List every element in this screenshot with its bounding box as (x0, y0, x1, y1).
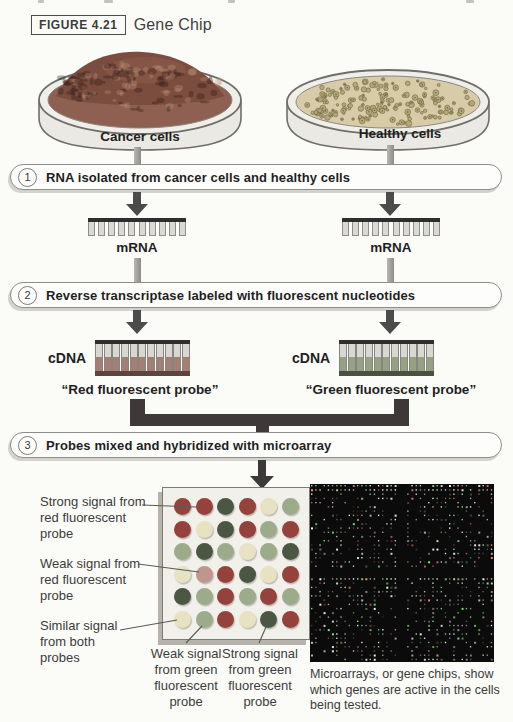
cdna-label-left: cDNA (48, 350, 86, 366)
mrna-tooth (352, 222, 359, 236)
down-arrow-icon (126, 310, 148, 334)
mrna-strand-left (88, 218, 186, 236)
down-arrow-icon (379, 192, 401, 216)
cdna-base-pair (147, 344, 155, 371)
microarray-dot-yellow (260, 566, 277, 583)
microarray-dot-red (282, 611, 299, 628)
microarray-dot-dgreen (196, 543, 213, 560)
down-arrow-icon (250, 460, 274, 489)
microarray-dot-yellow (239, 543, 256, 560)
mrna-tooth (423, 222, 430, 236)
down-arrow-icon (379, 310, 401, 334)
microarray-dot-red (196, 498, 213, 515)
microarray-dot-yellow (239, 611, 256, 628)
mrna-tooth (118, 222, 125, 236)
cdna-base-pair (104, 344, 112, 371)
cdna-base-pair (391, 344, 399, 371)
cdna-base-pair (95, 344, 103, 371)
step2-banner: 2 Reverse transcriptase labeled with flu… (10, 282, 502, 308)
microarray-dot-dgreen (174, 588, 191, 605)
step3-number: 3 (18, 436, 37, 455)
microarray-dot-dgreen (217, 498, 234, 515)
mrna-tooth (372, 222, 379, 236)
mrna-tooth (98, 222, 105, 236)
mrna-label-right: mRNA (346, 240, 436, 255)
microarray-dot-dgreen (239, 566, 256, 583)
figure-title: Gene Chip (134, 16, 212, 34)
microarray-photo (310, 484, 494, 662)
cdna-base-pair (374, 344, 382, 371)
mrna-tooth (108, 222, 115, 236)
microarray-dot-green (260, 543, 277, 560)
mrna-tooth (403, 222, 410, 236)
microarray-dot-green (260, 521, 277, 538)
annotation-strong-green: Strong signal from green fluorescent pro… (214, 646, 306, 709)
cdna-base-pair (348, 344, 356, 371)
step2-number: 2 (18, 286, 37, 305)
connector-mrna-right-to-step2 (387, 258, 394, 283)
microarray-dot-green (282, 588, 299, 605)
cdna-base-pair (365, 344, 373, 371)
microarray-dot-red (174, 498, 191, 515)
microarray-dot-red (174, 521, 191, 538)
microarray-dot-green (196, 611, 213, 628)
step1-text: RNA isolated from cancer cells and healt… (46, 170, 350, 185)
microarray-dot-yellow (260, 498, 277, 515)
microarray-dot-red (239, 498, 256, 515)
microarray-dot-red (282, 521, 299, 538)
mrna-tooth (149, 222, 156, 236)
step3-banner: 3 Probes mixed and hybridized with micro… (10, 432, 502, 458)
green-probe-label: “Green fluorescent probe” (286, 382, 496, 397)
mrna-tooth (362, 222, 369, 236)
mrna-tooth (159, 222, 166, 236)
microarray-dot-dgreen (217, 521, 234, 538)
cdna-base-pair (138, 344, 146, 371)
cdna-base-pair (409, 344, 417, 371)
page-crop-remnant (228, 0, 235, 3)
cdna-base-pair (182, 344, 190, 371)
microarray-dot-yellow (174, 566, 191, 583)
down-arrow-icon (126, 192, 148, 216)
cdna-base-pair (165, 344, 173, 371)
merge-connector-horizontal (130, 414, 409, 426)
photo-caption: Microarrays, or gene chips, show which g… (310, 667, 506, 714)
mrna-tooth (139, 222, 146, 236)
page-crop-remnant (466, 0, 474, 3)
figure-number-tag: FIGURE 4.21 (31, 15, 126, 35)
mrna-tooth (382, 222, 389, 236)
mrna-tooth (128, 222, 135, 236)
connector-healthy-to-step1 (387, 145, 394, 166)
cdna-base-pair (382, 344, 390, 371)
cdna-label-right: cDNA (292, 350, 330, 366)
healthy-cells-label: Healthy cells (330, 126, 470, 141)
microarray-grid (162, 487, 310, 640)
microarray-dot-dgreen (260, 611, 277, 628)
microarray-dot-red (260, 588, 277, 605)
microarray-dot-red (239, 521, 256, 538)
microarray-dot-red (217, 566, 234, 583)
cancer-cells-label: Cancer cells (75, 129, 205, 144)
cdna-base-pair (173, 344, 181, 371)
mrna-tooth (393, 222, 400, 236)
cdna-base-pair (112, 344, 120, 371)
step2-text: Reverse transcriptase labeled with fluor… (46, 288, 415, 303)
cdna-base-pair (356, 344, 364, 371)
mrna-strand-right (342, 218, 440, 236)
cdna-base-pair (426, 344, 434, 371)
cdna-base-pair (400, 344, 408, 371)
cdna-base-pair (417, 344, 425, 371)
step3-text: Probes mixed and hybridized with microar… (46, 438, 331, 453)
mrna-tooth (413, 222, 420, 236)
cdna-red-probe-strand (95, 340, 190, 376)
microarray-dot-red (217, 611, 234, 628)
annotation-strong-red: Strong signal from red fluorescent probe (40, 494, 158, 542)
cdna-base-pair (156, 344, 164, 371)
annotation-similar-both: Similar signal from both probes (40, 618, 150, 666)
cdna-base-pair (130, 344, 138, 371)
microarray-dot-red (282, 566, 299, 583)
mrna-tooth (342, 222, 349, 236)
cdna-green-probe-strand (339, 340, 434, 376)
mrna-tooth (179, 222, 186, 236)
microarray-dot-green (196, 588, 213, 605)
gene-chip-figure: FIGURE 4.21 Gene Chip Cancer cells Healt… (0, 0, 513, 722)
